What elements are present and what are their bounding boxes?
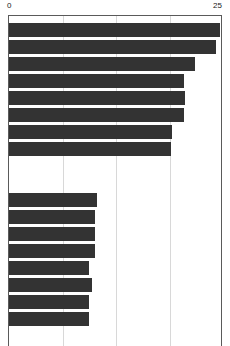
bar-row [9,57,222,71]
bar-row [9,91,222,105]
bar-chart: 0 25 [0,0,230,346]
plot-area [8,15,222,346]
bar[interactable] [9,91,185,105]
bar[interactable] [9,193,97,207]
bar-row [9,227,222,241]
bar-row [9,108,222,122]
bar[interactable] [9,244,95,258]
bar[interactable] [9,57,195,71]
bar-row [9,40,222,54]
bar-row [9,210,222,224]
x-axis-tick-label-max: 25 [213,1,222,11]
bar[interactable] [9,125,172,139]
bar-row [9,244,222,258]
bar[interactable] [9,295,89,309]
bar[interactable] [9,312,89,326]
bar-row [9,312,222,326]
bar[interactable] [9,261,89,275]
bar-row [9,278,222,292]
bar[interactable] [9,210,95,224]
bar-row [9,23,222,37]
bar[interactable] [9,142,171,156]
bar[interactable] [9,74,184,88]
bar-row [9,295,222,309]
bar[interactable] [9,40,216,54]
bar-row [9,125,222,139]
bars-layer [9,16,221,346]
bar-row [9,193,222,207]
bar[interactable] [9,23,220,37]
bar-row [9,142,222,156]
bar-row [9,74,222,88]
bar[interactable] [9,108,184,122]
bar-row [9,261,222,275]
x-axis-tick-label-min: 0 [7,1,11,11]
bar[interactable] [9,227,95,241]
x-axis-tick-labels: 0 25 [0,0,230,16]
bar[interactable] [9,278,92,292]
